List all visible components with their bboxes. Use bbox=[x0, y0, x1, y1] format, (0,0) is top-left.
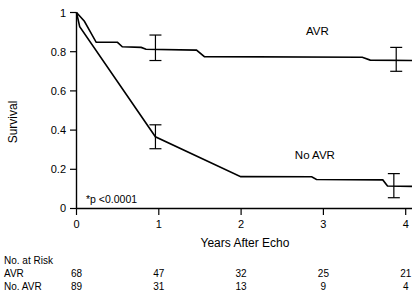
y-axis-tick-labels: 1 0.8 0.6 0.4 0.2 0 bbox=[51, 7, 66, 214]
curve-label-avr: AVR bbox=[306, 25, 329, 37]
curve-avr bbox=[77, 13, 413, 61]
risk-row-label-no-avr: No. AVR bbox=[4, 281, 42, 292]
y-tick-label-0: 0 bbox=[60, 202, 66, 214]
y-tick-label-0-2: 0.2 bbox=[51, 163, 66, 175]
curve-no-avr bbox=[77, 13, 413, 187]
x-axis-title: Years After Echo bbox=[201, 236, 290, 250]
x-tick-label-1: 1 bbox=[156, 218, 162, 230]
risk-table: No. at Risk AVR 68 47 32 25 21 No. AVR 8… bbox=[4, 255, 412, 292]
error-bar-no-avr-year1 bbox=[149, 125, 161, 149]
y-tick-label-0-6: 0.6 bbox=[51, 85, 66, 97]
error-bar-avr-year1 bbox=[149, 35, 161, 60]
survival-chart-figure: 1 0.8 0.6 0.4 0.2 0 0 bbox=[0, 0, 417, 298]
risk-cell-no-avr-y4: 4 bbox=[403, 281, 409, 292]
x-tick-label-2: 2 bbox=[238, 218, 244, 230]
y-axis-title: Survival bbox=[6, 101, 20, 144]
risk-table-title: No. at Risk bbox=[4, 255, 54, 266]
risk-cell-avr-y0: 68 bbox=[71, 268, 83, 279]
x-tick-label-0: 0 bbox=[73, 218, 79, 230]
x-tick-label-3: 3 bbox=[320, 218, 326, 230]
risk-cell-avr-y1: 47 bbox=[153, 268, 165, 279]
risk-cell-avr-y3: 25 bbox=[318, 268, 330, 279]
y-axis bbox=[70, 13, 77, 209]
risk-row-label-avr: AVR bbox=[4, 268, 24, 279]
risk-cell-no-avr-y0: 89 bbox=[71, 281, 83, 292]
risk-cell-no-avr-y3: 9 bbox=[321, 281, 327, 292]
pvalue-annotation: *p <0.0001 bbox=[86, 193, 137, 205]
risk-cell-avr-y2: 32 bbox=[236, 268, 248, 279]
y-tick-label-0-4: 0.4 bbox=[51, 124, 66, 136]
risk-cell-no-avr-y1: 31 bbox=[153, 281, 165, 292]
risk-table-row-no-avr: No. AVR 89 31 13 9 4 bbox=[4, 281, 409, 292]
curve-label-no-avr: No AVR bbox=[295, 149, 335, 161]
x-axis-tick-labels: 0 1 2 3 4 bbox=[73, 218, 408, 230]
risk-table-row-avr: AVR 68 47 32 25 21 bbox=[4, 268, 412, 279]
kaplan-meier-plot: 1 0.8 0.6 0.4 0.2 0 0 bbox=[0, 0, 417, 298]
x-axis bbox=[77, 209, 413, 216]
y-tick-label-0-8: 0.8 bbox=[51, 46, 66, 58]
risk-cell-no-avr-y2: 13 bbox=[236, 281, 248, 292]
x-tick-label-4: 4 bbox=[403, 218, 409, 230]
error-bar-avr-year4 bbox=[390, 47, 402, 71]
risk-cell-avr-y4: 21 bbox=[400, 268, 412, 279]
y-tick-label-1: 1 bbox=[60, 7, 66, 19]
